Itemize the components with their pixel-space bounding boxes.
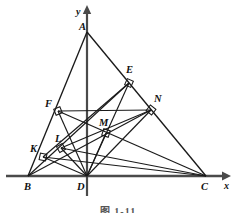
point-label-K: K [29,143,38,154]
point-label-F: F [44,98,52,109]
point-label-A: A [78,21,86,32]
right-angle-marks-group [39,79,156,161]
point-labels-group: A B C D E F N M L K [23,21,209,192]
point-label-M: M [98,117,109,128]
point-label-B: B [23,181,31,192]
y-axis-arrowhead [83,5,91,14]
diagram-canvas: A B C D E F N M L K x y [0,0,236,213]
figure-caption: 图 1-11 [0,203,236,213]
point-label-C: C [201,181,209,192]
x-axis-label: x [223,180,229,191]
geometry-figure: A B C D E F N M L K x y [0,0,236,213]
point-label-D: D [76,181,85,192]
segment-FN [58,110,151,111]
chords-group [28,83,206,176]
segment-AB [28,32,87,176]
axes-group [6,5,231,196]
point-label-L: L [54,133,61,144]
triangle-sides-group [28,32,206,176]
y-axis-label: y [75,6,81,17]
point-label-N: N [153,93,162,104]
point-label-E: E [125,64,133,75]
